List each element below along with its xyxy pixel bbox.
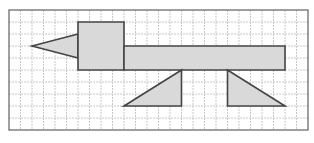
- body-rectangle: [124, 46, 285, 70]
- grid-diagram: Shapes on a square grid: [0, 0, 314, 143]
- back-leg-triangle: [228, 70, 286, 106]
- front-leg-triangle: [124, 70, 182, 106]
- head-square: [78, 22, 124, 70]
